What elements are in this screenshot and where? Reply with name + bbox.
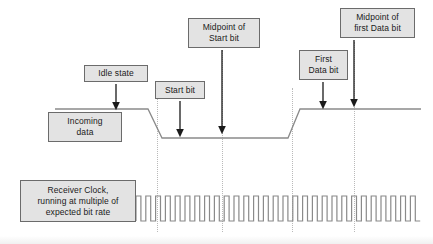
callout-incoming-data: Incoming data [48,112,122,142]
callout-start-bit: Start bit [155,81,205,99]
callout-first-data-bit: First Data bit [299,50,348,80]
guide-line-first-data-bit-edge [292,88,294,232]
guide-line-start-bit-edge [157,88,159,232]
timing-diagram-canvas: Idle state Start bit Midpoint of Start b… [0,0,433,244]
page-scan-shadow [0,236,433,244]
receiver-clock-waveform [136,196,420,221]
guide-line-midpoint-start-bit [222,50,224,232]
callout-receiver-clock: Receiver Clock, running at multiple of e… [20,180,136,222]
callout-midpoint-first-data-bit: Midpoint of first Data bit [340,8,415,38]
guide-line-midpoint-first-data-bit [354,42,356,232]
callout-midpoint-start-bit: Midpoint of Start bit [188,18,260,48]
callout-idle-state: Idle state [84,65,148,82]
